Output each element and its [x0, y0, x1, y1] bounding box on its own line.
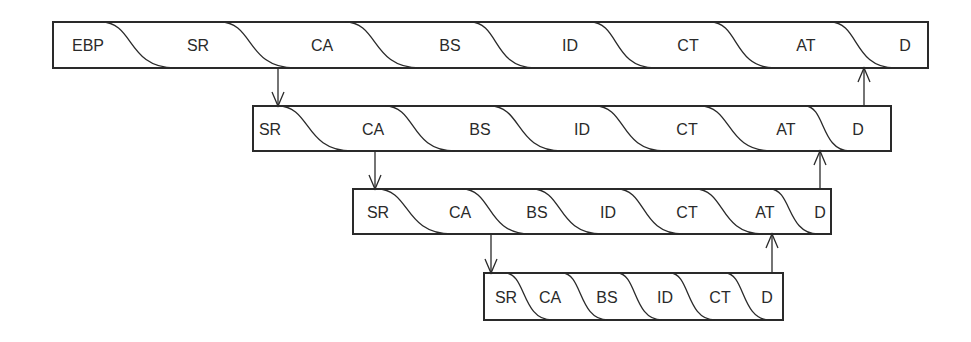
pipeline-level-2: SRCABSIDCTATD [253, 106, 891, 151]
stage-label: AT [796, 37, 815, 54]
stage-label: SR [367, 204, 389, 221]
stage-label: BS [439, 37, 460, 54]
stage-label: CT [676, 204, 698, 221]
stage-label: CT [709, 289, 731, 306]
arrow-down-icon [485, 234, 497, 273]
stage-label: D [761, 289, 773, 306]
stage-label: BS [526, 204, 547, 221]
stage-label: BS [596, 289, 617, 306]
arrow-up-icon [814, 151, 826, 189]
stage-label: SR [187, 37, 209, 54]
stage-label: CA [362, 121, 385, 138]
stage-label: ID [562, 37, 578, 54]
pipeline-diagram: EBPSRCABSIDCTATDSRCABSIDCTATDSRCABSIDCTA… [0, 0, 971, 342]
stage-label: CT [677, 37, 699, 54]
pipeline-arrows [272, 68, 870, 273]
stage-label: D [899, 37, 911, 54]
pipeline-level-3: SRCABSIDCTATD [353, 189, 831, 234]
stage-label: CT [676, 121, 698, 138]
pipeline-levels: EBPSRCABSIDCTATDSRCABSIDCTATDSRCABSIDCTA… [53, 22, 928, 320]
stage-label: ID [574, 121, 590, 138]
stage-label: ID [600, 204, 616, 221]
pipeline-level-4: SRCABSIDCTD [484, 273, 783, 320]
arrow-down-icon [369, 151, 381, 189]
stage-label: EBP [72, 37, 104, 54]
pipeline-level-1: EBPSRCABSIDCTATD [53, 22, 928, 68]
stage-label: AT [776, 121, 795, 138]
stage-label: D [814, 204, 826, 221]
stage-label: SR [495, 289, 517, 306]
stage-box [484, 273, 783, 320]
stage-label: BS [469, 121, 490, 138]
arrow-down-icon [272, 68, 284, 106]
arrow-up-icon [766, 234, 778, 273]
stage-label: AT [755, 204, 774, 221]
stage-label: ID [657, 289, 673, 306]
stage-label: D [852, 121, 864, 138]
stage-label: CA [449, 204, 472, 221]
arrow-up-icon [858, 68, 870, 106]
stage-label: CA [539, 289, 562, 306]
stage-label: CA [311, 37, 334, 54]
stage-label: SR [259, 121, 281, 138]
